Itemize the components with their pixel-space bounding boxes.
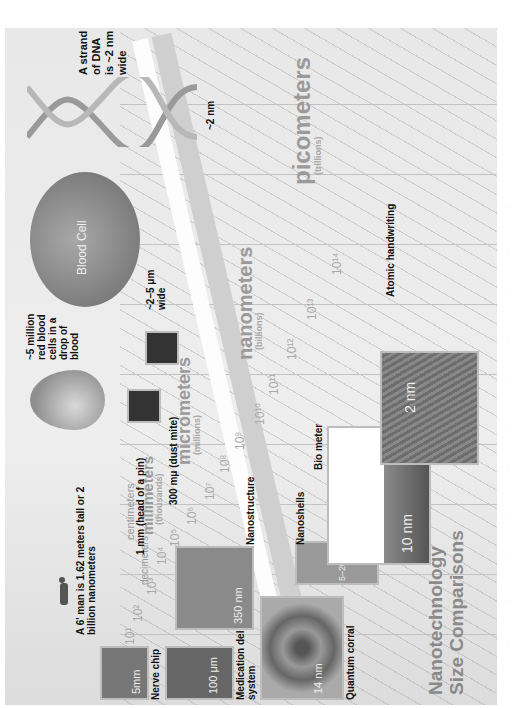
unit-micrometers: micrometers(millions) xyxy=(175,357,202,465)
infographic-panel: decimeters centimeters millimeters(thous… xyxy=(5,28,497,705)
pin-image xyxy=(127,389,161,423)
faint-caption: · · · · · · · · · · · · xyxy=(505,187,511,689)
pin-label: 1 mm (head of a pin) xyxy=(135,458,146,555)
atomic-handwriting-label: Atomic handwriting xyxy=(385,204,396,297)
man-head-icon xyxy=(59,577,65,583)
grid-line xyxy=(120,244,497,245)
exponent: 10¹² xyxy=(285,339,299,360)
exponent: 10⁷ xyxy=(203,482,217,500)
dust-mite-label: 300 mμ (dust mite) xyxy=(168,417,179,505)
exponent: 10¹ xyxy=(123,628,137,645)
nerve-chip-label: Nerve chip xyxy=(150,649,161,700)
page-title: Nanotechnology Size Comparisons xyxy=(425,530,467,695)
exponent: 10⁹ xyxy=(233,432,247,451)
blood-drop-icon xyxy=(30,370,105,430)
man-figure-icon xyxy=(60,583,68,605)
exponent: 10⁶ xyxy=(185,507,199,525)
medication-image: 100 μm xyxy=(165,646,234,700)
dna-icon xyxy=(27,77,197,147)
bio-meter-label: Bio meter xyxy=(313,424,324,470)
dna-callout: A strand of DNA is ~2 nm wide xyxy=(77,30,129,75)
exponent: 10⁸ xyxy=(218,455,232,473)
exponent: 10⁴ xyxy=(155,546,169,565)
exponent: 10¹¹ xyxy=(267,374,281,395)
nanostructure-image: 350 nm xyxy=(175,546,254,630)
exponent: 10¹⁴ xyxy=(330,253,344,276)
dna-width-label: ~2 nm xyxy=(205,101,216,130)
blood-cell-label: Blood Cell xyxy=(75,220,89,275)
quantum-corral-label: Quantum corral xyxy=(345,626,356,700)
unit-picometers: picometers(trillions) xyxy=(290,57,323,185)
infographic-rotated: decimeters centimeters millimeters(thous… xyxy=(0,0,527,709)
exponent: 10² xyxy=(131,605,145,622)
nanostructure-label: Nanostructure xyxy=(245,477,256,545)
dust-mite-image xyxy=(145,331,179,365)
atomic-handwriting-image: 2 nm xyxy=(380,351,479,465)
man-callout: A 6' man is 1.62 meters tall or 2 billio… xyxy=(75,485,97,635)
nanoshells-label: Nanoshells xyxy=(295,492,306,545)
exponent: 10³ xyxy=(145,578,159,595)
exponent: 10¹⁰ xyxy=(253,403,267,425)
blood-cell-width-label: ~2–5 μm wide xyxy=(145,265,167,310)
unit-nanometers: nanometers(billions) xyxy=(235,247,264,360)
blood-drop-callout-text: ~5 million red blood cells in a drop of … xyxy=(25,302,80,360)
exponent: 10⁵ xyxy=(168,529,182,547)
exponent: 10¹³ xyxy=(305,299,319,320)
quantum-corral-image: 14 nm xyxy=(260,596,344,700)
nerve-chip-image: 5mm xyxy=(100,646,149,700)
